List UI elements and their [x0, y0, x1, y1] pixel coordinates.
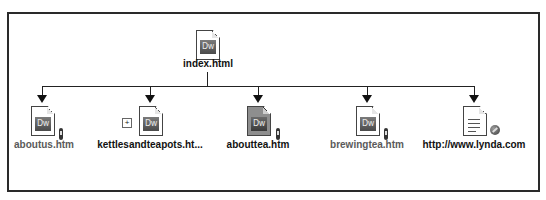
- page-fold: [263, 107, 270, 114]
- dw-badge: Dw: [200, 40, 216, 54]
- page-fold: [479, 107, 486, 114]
- page-fold: [212, 31, 219, 38]
- page-fold: [372, 107, 379, 114]
- arrow-down-icon: [362, 95, 372, 103]
- node-label: aboutus.htm: [14, 139, 74, 150]
- arrow-down-icon: [469, 95, 479, 103]
- external-link-globe-icon: [490, 125, 500, 135]
- page-fold: [155, 107, 162, 114]
- dw-badge: Dw: [35, 117, 51, 131]
- dw-badge: Dw: [143, 117, 159, 131]
- node-label: kettlesandteapots.ht...: [97, 139, 203, 150]
- dw-badge: Dw: [251, 117, 267, 131]
- node-label: index.html: [183, 58, 233, 69]
- arrow-down-icon: [145, 95, 155, 103]
- node-label: http://www.lynda.com: [423, 139, 526, 150]
- site-map-panel: [7, 12, 540, 192]
- root-connector: [207, 72, 208, 86]
- arrow-down-icon: [253, 95, 263, 103]
- arrow-down-icon: [37, 95, 47, 103]
- dw-badge: Dw: [360, 117, 376, 131]
- page-fold: [47, 107, 54, 114]
- text-lines: [468, 119, 480, 135]
- node-label: abouttea.htm: [227, 139, 290, 150]
- node-label: brewingtea.htm: [330, 139, 404, 150]
- expand-plus-icon[interactable]: +: [122, 118, 132, 128]
